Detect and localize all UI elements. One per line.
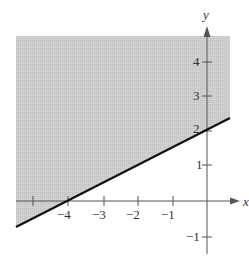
y-axis-label: y — [201, 7, 209, 22]
chart: x y −4 −3 −2 −1 4 3 2 1 −1 — [0, 0, 249, 260]
x-tick-label: −1 — [161, 207, 175, 222]
x-axis-label: x — [242, 194, 249, 209]
y-tick-label: −1 — [186, 229, 200, 244]
y-axis-arrow-icon — [204, 26, 211, 37]
x-tick-label: −4 — [57, 207, 71, 222]
y-tick-label: 3 — [193, 88, 200, 103]
x-axis-arrow-icon — [230, 198, 240, 205]
y-tick-label: 4 — [193, 54, 200, 69]
x-tick-label: −2 — [126, 207, 140, 222]
x-tick-label: −3 — [92, 207, 106, 222]
y-tick-label: 1 — [196, 157, 203, 172]
